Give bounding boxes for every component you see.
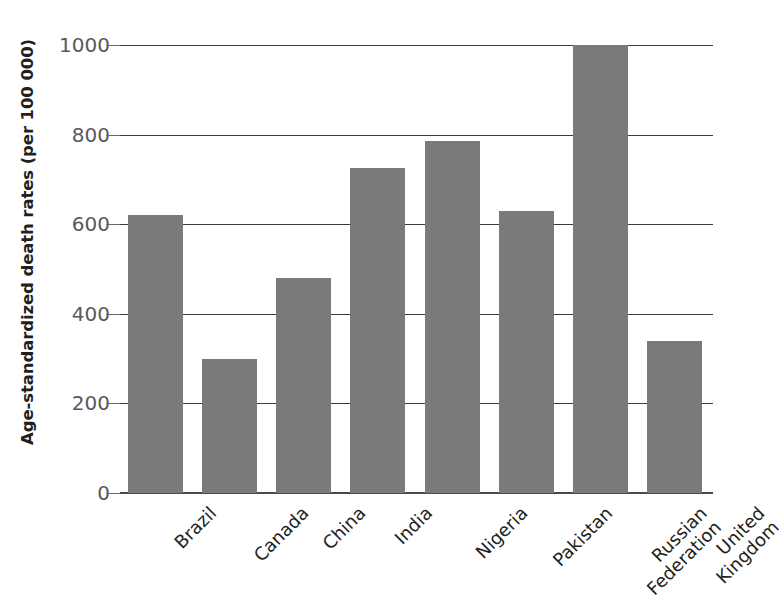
y-axis-tick-label: 0 — [48, 483, 110, 503]
y-axis-tick-label: 1000 — [48, 35, 110, 55]
x-axis-tick-label-line: Nigeria — [471, 502, 531, 562]
bar[interactable] — [350, 168, 405, 493]
x-axis-tick-label-line: Canada — [249, 502, 312, 565]
bar-slot — [639, 45, 713, 493]
x-axis-tick-label: UnitedKingdom — [698, 503, 783, 588]
bar[interactable] — [202, 359, 257, 493]
x-axis-tick-label: Pakistan — [549, 503, 617, 571]
bar[interactable] — [573, 45, 628, 493]
x-axis-tick-label: Canada — [250, 503, 313, 566]
bar-slot — [268, 45, 342, 493]
y-axis-title: Age-standardized death rates (per 100 00… — [10, 0, 44, 492]
x-axis-tick-label: India — [391, 503, 436, 548]
bar-slot — [417, 45, 491, 493]
y-axis-tick-label: 200 — [48, 393, 110, 413]
bar-slot — [565, 45, 639, 493]
y-axis-tick-mark — [106, 493, 120, 494]
bar[interactable] — [499, 211, 554, 493]
x-axis-tick-label: China — [319, 503, 370, 554]
bar[interactable] — [128, 215, 183, 493]
x-axis-tick-labels: BrazilCanadaChinaIndiaNigeriaPakistanRus… — [120, 497, 713, 608]
y-axis-tick-mark — [106, 314, 120, 315]
y-axis-tick-label: 600 — [48, 214, 110, 234]
x-axis-tick-label-line: Pakistan — [548, 502, 616, 570]
y-axis-tick-mark — [106, 224, 120, 225]
bar[interactable] — [276, 278, 331, 493]
x-axis-tick-label: Nigeria — [471, 503, 531, 563]
y-axis-tick-label: 400 — [48, 304, 110, 324]
x-axis-tick-label-line: China — [319, 502, 370, 553]
bar[interactable] — [425, 141, 480, 493]
x-axis-tick-label-line: India — [391, 502, 437, 548]
y-axis-tick-mark — [106, 403, 120, 404]
plot-area — [120, 45, 713, 493]
bar[interactable] — [647, 341, 702, 493]
x-axis-tick-label: Brazil — [171, 503, 221, 553]
bar-slot — [342, 45, 416, 493]
y-axis-tick-labels: 02004006008001000 — [48, 0, 110, 608]
bar-slot — [491, 45, 565, 493]
y-axis-tick-mark — [106, 135, 120, 136]
x-axis-tick-label-line: Brazil — [170, 502, 220, 552]
bar-slot — [120, 45, 194, 493]
y-axis-tick-label: 800 — [48, 125, 110, 145]
bars-layer — [120, 45, 713, 493]
bar-slot — [194, 45, 268, 493]
y-axis-tick-mark — [106, 45, 120, 46]
